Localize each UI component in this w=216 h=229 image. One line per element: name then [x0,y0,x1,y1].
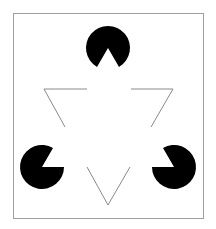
bottom-right-inducer [152,145,196,189]
bottom-left-inducer [20,145,64,189]
top-inducer [86,26,130,67]
kanizsa-figure [0,0,216,229]
outline-triangle [44,89,173,205]
